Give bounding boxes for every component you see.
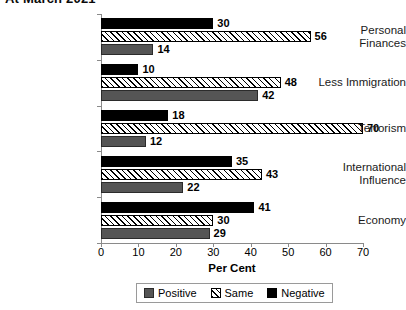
bar-same [101, 77, 281, 88]
bar-value-label: 30 [217, 214, 229, 226]
bar-value-label: 30 [217, 17, 229, 29]
bar-negative [101, 156, 232, 167]
legend-swatch-same-icon [211, 288, 221, 298]
bar-value-label: 35 [236, 155, 248, 167]
bar-same [101, 31, 311, 42]
category-label: Economy [309, 214, 406, 227]
chart-title: At March 2021 [5, 0, 96, 6]
bar-same [101, 169, 262, 180]
x-tick-label: 40 [245, 246, 257, 258]
category-label: Less Immigration [309, 76, 406, 89]
category-label: International Influence [309, 161, 406, 187]
bar-same [101, 215, 213, 226]
legend-label: Positive [158, 287, 197, 299]
y-tick [97, 14, 101, 15]
bar-value-label: 10 [142, 63, 154, 75]
y-tick [97, 60, 101, 61]
bar-positive [101, 136, 146, 147]
legend-label: Same [225, 287, 254, 299]
x-tick-label: 0 [98, 246, 104, 258]
chart-legend: PositiveSameNegative [136, 283, 333, 303]
category-label: Personal Finances [309, 24, 406, 50]
x-axis-line [101, 243, 363, 244]
bar-value-label: 12 [150, 135, 162, 147]
y-tick [97, 197, 101, 198]
y-tick [97, 106, 101, 107]
x-tick-label: 50 [282, 246, 294, 258]
bar-value-label: 43 [266, 168, 278, 180]
bar-row: 41 [101, 202, 363, 213]
bar-positive [101, 44, 153, 55]
bar-value-label: 29 [214, 227, 226, 239]
legend-swatch-positive-icon [144, 288, 154, 298]
bar-value-label: 41 [258, 201, 270, 213]
bar-row: 12 [101, 136, 363, 147]
bar-value-label: 48 [285, 76, 297, 88]
bar-row: 10 [101, 64, 363, 75]
legend-swatch-negative-icon [267, 288, 277, 298]
x-tick-label: 30 [207, 246, 219, 258]
x-tick-label: 60 [319, 246, 331, 258]
y-tick [97, 151, 101, 152]
bar-row: 42 [101, 90, 363, 101]
x-tick-label: 70 [357, 246, 369, 258]
bar-value-label: 42 [262, 89, 274, 101]
bar-row: 18 [101, 110, 363, 121]
x-axis-title: Per Cent [101, 262, 363, 274]
bar-value-label: 14 [157, 43, 169, 55]
bar-positive [101, 182, 183, 193]
bar-negative [101, 110, 168, 121]
category-label: Terrorism [309, 122, 406, 135]
legend-label: Negative [281, 287, 324, 299]
legend-item-negative[interactable]: Negative [267, 287, 324, 299]
bar-chart: At March 2021 30561410484218701235432241… [0, 0, 406, 310]
legend-item-positive[interactable]: Positive [144, 287, 197, 299]
bar-value-label: 22 [187, 181, 199, 193]
legend-item-same[interactable]: Same [211, 287, 254, 299]
bar-negative [101, 202, 254, 213]
bar-value-label: 18 [172, 109, 184, 121]
bar-row: 29 [101, 228, 363, 239]
bar-positive [101, 90, 258, 101]
x-tick-label: 20 [170, 246, 182, 258]
bar-positive [101, 228, 210, 239]
x-tick-label: 10 [132, 246, 144, 258]
bar-negative [101, 18, 213, 29]
bar-negative [101, 64, 138, 75]
